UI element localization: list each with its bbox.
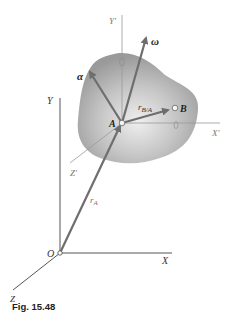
figure-canvas: Y X Z O Y' X' Z' A B ω α rB/A rA Fig. 15… — [0, 0, 235, 317]
label-x: X — [161, 255, 169, 266]
point-o — [58, 251, 62, 255]
label-x-prime: X' — [211, 128, 220, 138]
label-y-prime: Y' — [109, 16, 117, 26]
label-o: O — [47, 248, 54, 259]
point-b — [172, 105, 178, 111]
label-r-a: rA — [90, 195, 99, 207]
label-y: Y — [47, 95, 54, 106]
point-a — [119, 120, 125, 126]
label-alpha: α — [77, 70, 84, 82]
rigid-body-diagram: Y X Z O Y' X' Z' A B ω α rB/A rA — [0, 0, 235, 317]
label-z-prime: Z' — [70, 168, 78, 178]
label-b: B — [179, 103, 187, 114]
figure-caption: Fig. 15.48 — [12, 301, 55, 312]
label-omega: ω — [151, 35, 159, 47]
label-a: A — [108, 118, 116, 129]
